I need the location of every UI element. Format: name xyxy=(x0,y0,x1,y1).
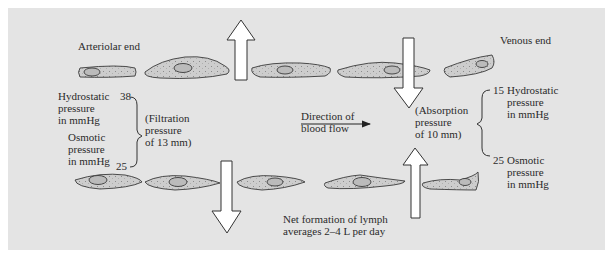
right-hydrostatic-label: Hydrostatic pressure in mmHg xyxy=(507,84,558,120)
arteriolar-end-label: Arteriolar end xyxy=(78,40,140,52)
right-osmotic-label: Osmotic pressure in mmHg xyxy=(507,154,549,190)
left-hydrostatic-label: Hydrostatic pressure in mmHg xyxy=(58,90,109,126)
down-arrow-filtration-bottom xyxy=(212,161,241,233)
venous-end-label: Venous end xyxy=(500,34,551,46)
absorption-pressure-label: (Absorption pressure of 10 mm) xyxy=(415,104,468,140)
left-hydrostatic-value: 38 xyxy=(120,90,131,102)
left-brace xyxy=(130,97,142,167)
left-osmotic-value: 25 xyxy=(116,160,127,172)
left-osmotic-label: Osmotic pressure in mmHg xyxy=(68,131,110,167)
filtration-pressure-label: (Filtration pressure of 13 mm) xyxy=(145,112,191,148)
right-hydrostatic-value: 15 xyxy=(493,84,504,96)
blood-flow-direction-label: Direction of blood flow xyxy=(301,110,354,134)
top-capillary-wall xyxy=(79,55,495,79)
right-brace xyxy=(477,90,490,156)
right-osmotic-value: 25 xyxy=(493,154,504,166)
up-arrow-filtration-top xyxy=(227,20,255,80)
lymph-formation-note: Net formation of lymph averages 2–4 L pe… xyxy=(283,213,388,237)
